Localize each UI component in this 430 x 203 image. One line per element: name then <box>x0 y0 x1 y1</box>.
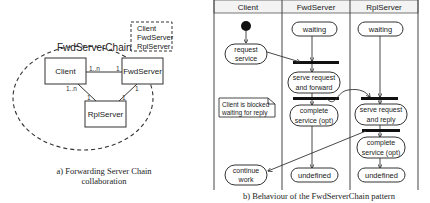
class-rplserver-label: RplServer <box>88 110 124 119</box>
initial-node <box>241 21 251 31</box>
rpl-complete-line1: complete <box>367 139 396 147</box>
fwd-serve-line2: and forward <box>296 84 333 91</box>
mult-client-rpl-b: 1 <box>87 94 91 101</box>
mult-client-fwd-b: 1 <box>116 65 120 72</box>
activity-diagram: Client FwdServer RplServer request servi… <box>214 0 418 201</box>
lane-rplserver-title: RplServer <box>366 3 402 12</box>
rpl-sync-bar-1 <box>361 97 398 100</box>
collaboration-diagram: Client FwdServer RplServer FwdServerChai… <box>13 22 174 186</box>
role-client: Client <box>137 24 157 33</box>
rpl-waiting-label: waiting <box>368 25 392 34</box>
fwd-sync-bar-2 <box>293 97 339 100</box>
mult-client-fwd-a: 1..n <box>89 65 100 72</box>
rpl-complete-line2: service (opt) <box>362 149 401 157</box>
caption-a-line1: a) Forwarding Server Chain <box>56 166 152 176</box>
lane-client-title: Client <box>238 3 259 12</box>
fwd-complete-line1: complete <box>300 107 329 115</box>
fwd-sync-bar-1 <box>293 61 339 64</box>
fwd-waiting-label: waiting <box>302 25 326 34</box>
class-fwdserver-label: FwdServer <box>123 67 162 76</box>
flow-request-to-fwd <box>267 52 300 62</box>
continue-work-line1: continue <box>233 167 260 174</box>
flow-reply-to-client <box>268 131 366 171</box>
figure: Client FwdServer RplServer FwdServerChai… <box>0 0 430 203</box>
role-fwdserver: FwdServer <box>137 33 174 42</box>
lane-fwdserver-title: FwdServer <box>297 3 336 12</box>
fwd-serve-line1: serve request <box>293 74 335 82</box>
class-client-label: Client <box>55 67 76 76</box>
request-service-line1: request <box>234 46 257 54</box>
continue-work-line2: work <box>238 176 254 183</box>
rpl-sync-bar-2 <box>362 129 400 132</box>
mult-client-rpl-a: 1..n <box>66 85 77 92</box>
request-service-line2: service <box>235 55 257 62</box>
rpl-serve-line1: serve request <box>360 106 402 114</box>
collaboration-name: FwdServerChain <box>57 42 131 53</box>
caption-b: b) Behaviour of the FwdServerChain patte… <box>243 191 396 201</box>
note-line2: waiting for reply <box>221 109 268 117</box>
rpl-undefined-label: undefined <box>365 171 398 180</box>
mult-fwd-rpl-a: 1 <box>135 85 139 92</box>
note-line1: Client is blocked <box>222 101 270 108</box>
role-rplserver: RplServer <box>137 42 171 51</box>
fwd-undefined-label: undefined <box>298 171 331 180</box>
caption-a-line2: collaboration <box>82 176 128 186</box>
mult-fwd-rpl-b: 1 <box>122 94 126 101</box>
fwd-complete-line2: service (opt) <box>295 117 334 125</box>
rpl-serve-line2: and reply <box>367 116 396 124</box>
